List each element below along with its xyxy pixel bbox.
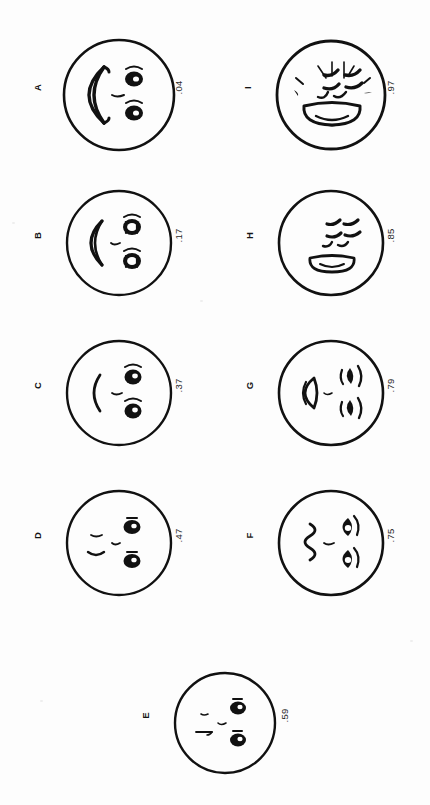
face-panel-a: A xyxy=(20,20,200,170)
figure-plate: A xyxy=(0,0,430,805)
face-panel-e: E .59 xyxy=(128,648,308,798)
panel-value-d: .47 xyxy=(173,529,184,543)
scan-speck xyxy=(40,700,43,702)
panel-letter-f: F xyxy=(244,532,255,538)
scan-speck xyxy=(200,300,203,302)
face-drawing-e xyxy=(164,662,286,784)
face-drawing-c xyxy=(56,330,182,456)
panel-letter-g: G xyxy=(244,382,255,390)
face-panel-i: I xyxy=(232,20,412,170)
face-panel-g: G .79 xyxy=(232,318,412,468)
face-panel-d: D .47 xyxy=(20,468,200,618)
panel-value-c: .37 xyxy=(173,379,184,393)
panel-value-e: .59 xyxy=(279,709,290,723)
panel-value-b: .17 xyxy=(173,229,184,243)
panel-letter-h: H xyxy=(244,232,255,239)
panel-value-g: .79 xyxy=(385,379,396,393)
face-drawing-h xyxy=(268,180,394,306)
face-panel-h: H .85 xyxy=(232,168,412,318)
scan-speck xyxy=(410,640,413,642)
panel-letter-d: D xyxy=(32,532,43,539)
face-drawing-f xyxy=(268,480,394,606)
face-drawing-d xyxy=(56,480,182,606)
panel-letter-e: E xyxy=(140,712,151,719)
face-panel-b: B xyxy=(20,168,200,318)
face-panel-c: C .37 xyxy=(20,318,200,468)
face-drawing-i xyxy=(268,32,394,158)
panel-value-a: .04 xyxy=(173,81,184,95)
face-drawing-g xyxy=(268,330,394,456)
face-drawing-a xyxy=(56,32,182,158)
panel-value-i: .97 xyxy=(385,81,396,95)
panel-letter-a: A xyxy=(32,84,43,91)
face-panel-f: F .75 xyxy=(232,468,412,618)
panel-value-f: .75 xyxy=(385,529,396,543)
panel-letter-b: B xyxy=(32,232,43,239)
panel-letter-i: I xyxy=(242,86,253,89)
scan-speck xyxy=(12,222,15,224)
panel-value-h: .85 xyxy=(385,229,396,243)
face-drawing-b xyxy=(56,180,182,306)
panel-letter-c: C xyxy=(32,382,43,389)
